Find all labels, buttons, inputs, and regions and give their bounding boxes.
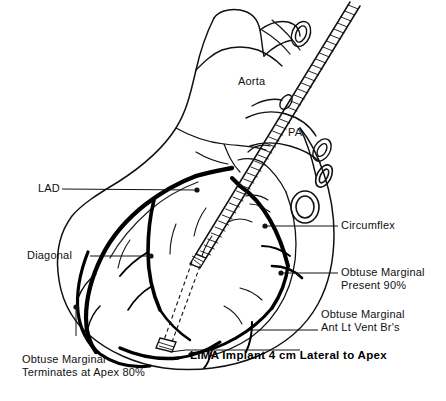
obtuse-marginal-ant-line2: Ant Lt Vent Br's [321,321,405,334]
graft-anastomosis-site [190,254,206,268]
obtuse-marginal-ant-line1: Obtuse Marginal [321,308,405,321]
coronary-anatomy-figure: Aorta PA LAD Diagonal Circumflex Obtuse … [0,0,446,401]
lad-artery [86,168,232,352]
lad-callout-label: LAD [38,182,60,195]
obtuse-marginal-present-label: Obtuse Marginal Present 90% [341,266,425,292]
obtuse-marginal-present-line2: Present 90% [341,279,425,292]
obtuse-marginal-ant-label: Obtuse Marginal Ant Lt Vent Br's [321,308,405,334]
circumflex-callout-label: Circumflex [341,219,395,232]
pa-label: PA [288,126,302,139]
obtuse-marginal-terminates-label: Obtuse Marginal Terminates at Apex 80% [22,353,145,379]
heart-outline [58,18,334,370]
heart-illustration [0,0,446,401]
lima-implant-caption: LIMA Implant 4 cm Lateral to Apex [190,349,387,362]
obtuse-marginal-present-line1: Obtuse Marginal [341,266,425,279]
obtuse-marginal-terminates-line2: Terminates at Apex 80% [22,366,145,379]
diagonal-branch [120,200,190,340]
graft-projection-dashed [164,262,200,342]
lima-graft [196,2,360,258]
aorta-label: Aorta [238,75,265,88]
diagonal-callout-label: Diagonal [27,249,72,262]
obtuse-marginal-terminates-line1: Obtuse Marginal [22,353,145,366]
